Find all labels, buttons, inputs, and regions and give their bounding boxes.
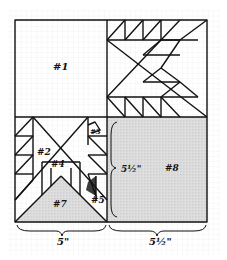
- label-piece-2: #2: [37, 147, 51, 157]
- dimension-bottom-right: 5½": [149, 236, 172, 247]
- label-piece-7: #7: [53, 199, 68, 209]
- label-piece-5: #5: [91, 195, 105, 205]
- quilt-diagram: #1 #2 #3 #4 #5 #7 #8 5½" 5" 5½": [0, 0, 227, 260]
- dimension-bottom-left: 5": [57, 236, 69, 247]
- label-piece-3: #3: [90, 127, 101, 136]
- label-piece-1: #1: [53, 61, 68, 72]
- dimension-right-side: 5½": [121, 164, 141, 174]
- label-piece-8: #8: [165, 163, 180, 173]
- label-piece-4: #4: [51, 159, 65, 169]
